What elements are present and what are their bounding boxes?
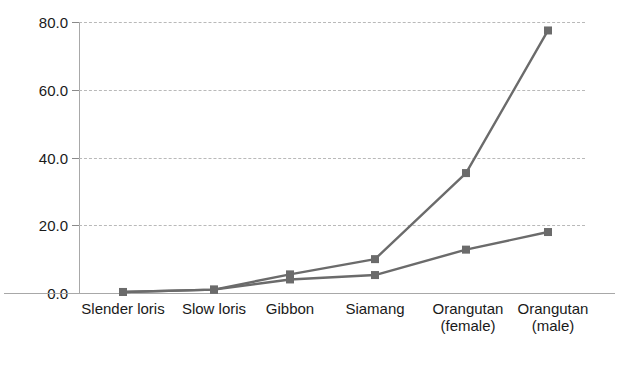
- line-chart: 80.0 60.0 40.0 20.0 0.0 Slender loris Sl…: [0, 0, 619, 366]
- x-tick-label-orangutan-male: Orangutan (male): [503, 300, 603, 334]
- data-point-marker: [544, 228, 552, 236]
- data-point-marker: [210, 286, 218, 294]
- data-point-marker: [462, 246, 470, 254]
- series-line-1: [123, 30, 548, 292]
- x-tick-label-gibbon: Gibbon: [244, 300, 336, 317]
- series-markers-2: [119, 228, 552, 296]
- series-line-2: [123, 232, 548, 292]
- x-tick-label-siamang: Siamang: [327, 300, 423, 317]
- data-point-marker: [286, 275, 294, 283]
- data-point-marker: [371, 271, 379, 279]
- data-point-marker: [119, 288, 127, 296]
- x-tick-label-slender-loris: Slender loris: [67, 300, 179, 317]
- x-axis-labels: Slender loris Slow loris Gibbon Siamang …: [0, 300, 619, 360]
- data-point-marker: [544, 26, 552, 34]
- series-markers-1: [119, 26, 552, 296]
- data-point-marker: [462, 169, 470, 177]
- data-point-marker: [371, 255, 379, 263]
